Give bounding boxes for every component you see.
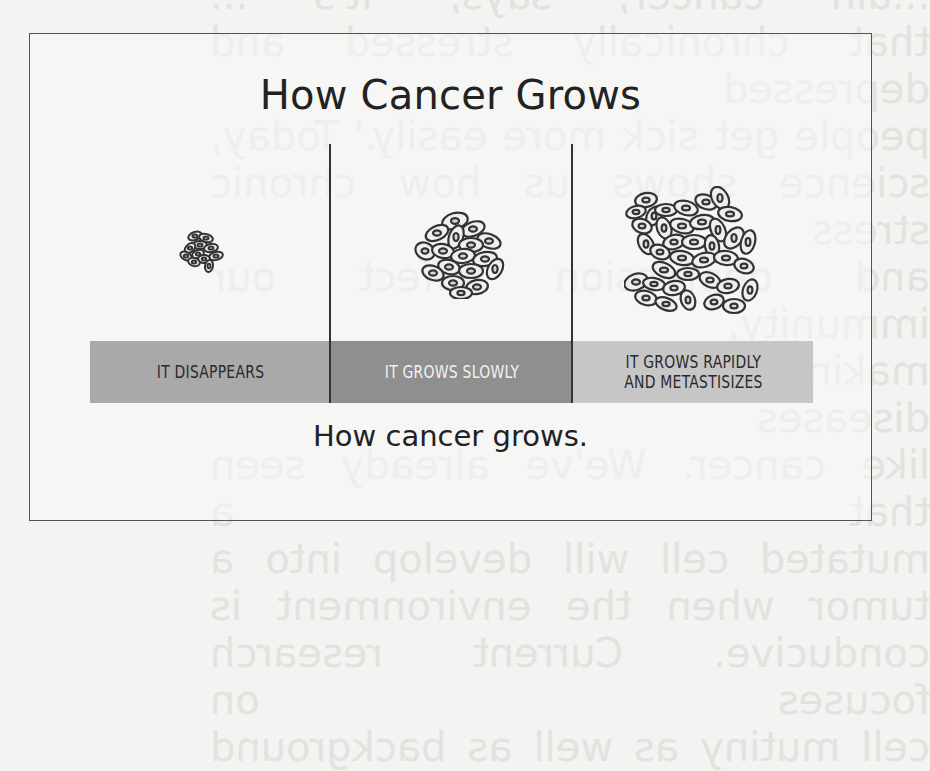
stage-1-band: IT DISAPPEARS [90,341,331,403]
medium-cell-cluster-icon [411,209,507,299]
bleed-line: conducive. Current research focuses on [210,630,930,724]
stage-2-label: IT GROWS SLOWLY [385,341,520,403]
bleed-line: tumor when the environment is [210,583,930,630]
small-cell-cluster-icon [178,226,226,274]
bleed-line: cell mutiny as well as background [210,724,930,771]
large-cell-cluster-icon [624,186,764,316]
stage-label-band: IT DISAPPEARS IT GROWS SLOWLY IT GROWS R… [90,341,813,403]
stage-3-label: IT GROWS RAPIDLY AND METASTISIZES [624,341,763,403]
figure-frame: How Cancer Grows [29,33,872,521]
bleed-line: mutated cell will develop into a [210,536,930,583]
stage-divider-2 [571,144,573,403]
stage-2-band: IT GROWS SLOWLY [331,341,573,403]
stage-1-label: IT DISAPPEARS [157,341,264,403]
stage-divider-1 [329,144,331,403]
figure-title: How Cancer Grows [30,72,871,118]
stage-3-band: IT GROWS RAPIDLY AND METASTISIZES [573,341,813,403]
figure-caption: How cancer grows. [30,419,871,453]
bleed-line: ...ain cancer, says, 'it's ... [210,0,930,19]
